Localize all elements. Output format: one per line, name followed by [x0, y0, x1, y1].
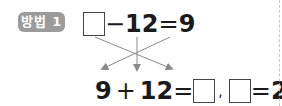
equals-sign-2: =	[251, 77, 271, 105]
answer-blank-sum[interactable]	[193, 79, 215, 103]
final-answer: 21	[271, 77, 282, 105]
bottom-equation: 9+12=,=21	[95, 77, 282, 104]
answer-blank-final[interactable]	[229, 79, 251, 103]
equals-sign-1: =	[173, 77, 193, 105]
dashed-divider	[279, 0, 280, 106]
addend-left: 9	[95, 77, 112, 105]
separator-comma: ,	[218, 83, 222, 99]
plus-sign: +	[116, 77, 136, 105]
addend-right: 12	[140, 77, 173, 105]
